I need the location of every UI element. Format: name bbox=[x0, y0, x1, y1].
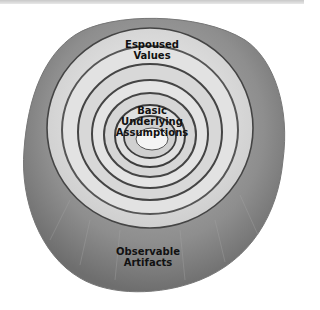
label-basic-underlying-assumptions: Basic Underlying Assumptions bbox=[97, 105, 207, 138]
label-espoused-values: Espoused Values bbox=[97, 39, 207, 61]
label-observable-artifacts: Observable Artifacts bbox=[93, 246, 203, 268]
